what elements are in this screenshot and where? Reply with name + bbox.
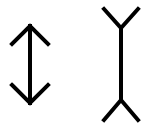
muller-lyer-illusion <box>0 0 155 128</box>
bottom-fins <box>104 100 138 120</box>
left-double-arrow-icon <box>12 26 48 103</box>
top-fins <box>104 9 138 28</box>
right-fin-line-icon <box>104 9 138 120</box>
